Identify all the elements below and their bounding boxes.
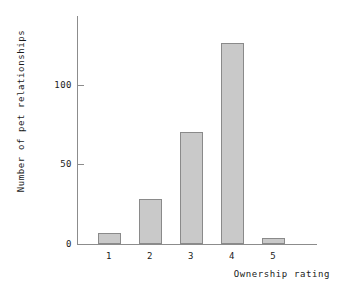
y-axis-title: Number of pet relationships [16,16,26,206]
bar-category-2 [139,199,162,244]
y-tick-0 [78,244,84,245]
bar-category-3 [180,132,203,244]
x-tick-label-4: 4 [212,252,252,261]
plot-area [77,16,317,244]
bar-chart: 0 50 100 1 2 3 4 5 Ownership rating Numb… [0,0,340,291]
x-tick-label-1: 1 [89,252,129,261]
x-axis-title: Ownership rating [0,269,330,279]
y-tick-label-2: 100 [54,81,72,90]
bar-category-4 [221,43,244,244]
x-tick-label-2: 2 [130,252,170,261]
y-tick-label-0: 0 [66,240,72,249]
bar-category-1 [98,233,121,244]
bar-category-5 [262,238,285,244]
x-axis-line [77,244,317,245]
y-tick-label-1: 50 [60,160,72,169]
x-tick-label-5: 5 [253,252,293,261]
x-tick-label-3: 3 [171,252,211,261]
